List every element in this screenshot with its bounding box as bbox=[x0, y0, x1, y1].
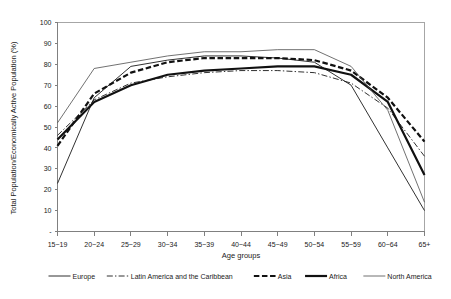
y-tick-label: 10 bbox=[44, 207, 52, 214]
x-axis-title: Age groups bbox=[222, 251, 261, 260]
x-tick-label: 15~19 bbox=[48, 241, 68, 248]
y-tick-label: 80 bbox=[44, 61, 52, 68]
x-tick-label: 55~59 bbox=[341, 241, 361, 248]
x-tick-label: 60~64 bbox=[378, 241, 398, 248]
chart-legend: EuropeLatin America and the CaribbeanAsi… bbox=[49, 273, 432, 281]
legend-label-north-america: North America bbox=[387, 273, 431, 280]
legend-label-asia: Asia bbox=[278, 273, 292, 280]
chart-container: Total Population/Economically Active Pop… bbox=[0, 0, 451, 299]
y-tick-label: 50 bbox=[44, 124, 52, 131]
y-axis: -102030405060708090100 bbox=[40, 19, 58, 235]
x-tick-label: 30~34 bbox=[158, 241, 178, 248]
y-tick-label: 20 bbox=[44, 186, 52, 193]
y-tick-label: 90 bbox=[44, 40, 52, 47]
x-tick-label: 35~39 bbox=[194, 241, 214, 248]
x-tick-label: 20~24 bbox=[84, 241, 104, 248]
x-axis: 15~1920~2425~2930~3435~3940~4445~4950~54… bbox=[48, 232, 431, 248]
y-tick-label: 100 bbox=[40, 19, 52, 26]
line-chart: Total Population/Economically Active Pop… bbox=[0, 0, 451, 299]
legend-label-africa: Africa bbox=[329, 273, 347, 280]
x-tick-label: 65+ bbox=[419, 241, 431, 248]
x-tick-label: 25~29 bbox=[121, 241, 141, 248]
y-tick-label: - bbox=[49, 228, 52, 235]
y-tick-label: 40 bbox=[44, 145, 52, 152]
y-axis-title: Total Population/Economically Active Pop… bbox=[9, 41, 18, 215]
y-tick-label: 70 bbox=[44, 82, 52, 89]
y-tick-label: 60 bbox=[44, 103, 52, 110]
y-tick-label: 30 bbox=[44, 165, 52, 172]
x-tick-label: 40~44 bbox=[231, 241, 251, 248]
plot-area bbox=[58, 23, 425, 232]
legend-label-europe: Europe bbox=[73, 273, 96, 281]
legend-label-latin-america-and-the-caribbean: Latin America and the Caribbean bbox=[131, 273, 233, 280]
x-tick-label: 50~54 bbox=[305, 241, 325, 248]
x-tick-label: 45~49 bbox=[268, 241, 288, 248]
